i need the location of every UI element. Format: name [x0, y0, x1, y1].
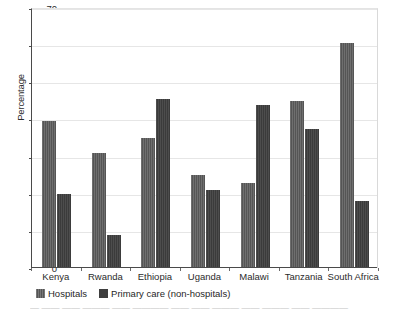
- x-axis-tick-mark: [31, 268, 32, 271]
- legend-item-primary-care[interactable]: Primary care (non-hospitals): [99, 288, 230, 299]
- x-axis-tick-label: South Africa: [328, 271, 379, 282]
- plot-inner: [32, 9, 377, 268]
- x-axis-tick-mark: [279, 268, 280, 271]
- bar-chart: Percentage 010203040506070 KenyaRwandaEt…: [0, 0, 393, 313]
- bar: [191, 175, 205, 268]
- y-axis-tick-mark: [29, 195, 32, 196]
- x-axis-tick-mark: [180, 268, 181, 271]
- y-axis-tick-mark: [29, 83, 32, 84]
- chart-legend: Hospitals Primary care (non-hospitals): [36, 288, 230, 299]
- legend-swatch-icon: [36, 289, 45, 298]
- bar: [107, 235, 121, 268]
- x-axis-tick-label: Malawi: [239, 271, 269, 282]
- x-axis-tick-mark: [378, 268, 379, 271]
- plot-area: [31, 8, 378, 268]
- x-axis-tick-mark: [130, 268, 131, 271]
- legend-swatch-icon: [99, 289, 108, 298]
- y-axis-tick-mark: [29, 232, 32, 233]
- gridline: [32, 158, 377, 159]
- bar: [355, 201, 369, 268]
- clipped-caption: — —— —— ——— —— ———— —— —— ——— —— ——— —— …: [30, 305, 385, 313]
- x-axis-line: [31, 267, 377, 268]
- y-axis-tick-mark: [29, 158, 32, 159]
- legend-label: Primary care (non-hospitals): [111, 288, 230, 299]
- gridline: [32, 120, 377, 121]
- bar: [141, 138, 155, 268]
- y-axis-tick-mark: [29, 120, 32, 121]
- bar: [206, 190, 220, 268]
- x-axis-tick-label: Rwanda: [88, 271, 123, 282]
- x-axis-tick-mark: [328, 268, 329, 271]
- gridline: [32, 46, 377, 47]
- x-axis-tick-label: Kenya: [42, 271, 69, 282]
- bar: [42, 121, 56, 268]
- y-axis-tick-mark: [29, 9, 32, 10]
- y-axis-label: Percentage: [15, 48, 26, 148]
- x-axis-tick-mark: [229, 268, 230, 271]
- gridline: [32, 83, 377, 84]
- x-axis-tick-label: Tanzania: [285, 271, 323, 282]
- x-axis-tick-label: Uganda: [188, 271, 221, 282]
- y-axis-tick-mark: [29, 46, 32, 47]
- bar: [290, 101, 304, 268]
- bar: [241, 183, 255, 268]
- bar: [305, 129, 319, 268]
- bar: [92, 153, 106, 268]
- x-axis-tick-mark: [81, 268, 82, 271]
- bar: [156, 99, 170, 268]
- legend-item-hospitals[interactable]: Hospitals: [36, 288, 87, 299]
- gridline: [32, 9, 377, 10]
- x-axis-tick-label: Ethiopia: [138, 271, 172, 282]
- legend-label: Hospitals: [48, 288, 87, 299]
- bar: [340, 43, 354, 268]
- clipped-caption-text: — —— —— ——— —— ———— —— —— ——— —— ——— —— …: [30, 305, 385, 313]
- bar: [256, 105, 270, 268]
- bar: [57, 194, 71, 268]
